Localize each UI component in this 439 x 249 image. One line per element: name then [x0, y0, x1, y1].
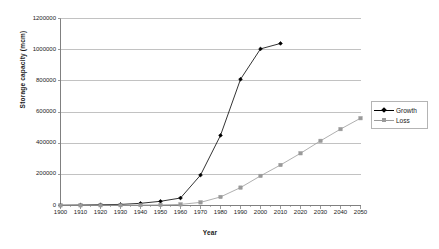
legend-label-growth: Growth [394, 107, 417, 114]
legend-label-loss: Loss [394, 117, 410, 124]
x-axis-tick-label: 2050 [346, 209, 376, 215]
chart-legend: Growth Loss [371, 101, 428, 129]
legend-marker-loss-icon [374, 116, 394, 125]
legend-item-loss[interactable]: Loss [374, 115, 424, 125]
legend-item-growth[interactable]: Growth [374, 105, 424, 115]
x-axis-title: Year [60, 229, 360, 236]
y-axis-title: Storage capacity (mcm) [19, 10, 26, 130]
chart-container: 020000040000060000080000010000001200000 … [0, 0, 439, 249]
legend-marker-growth-icon [374, 106, 394, 115]
